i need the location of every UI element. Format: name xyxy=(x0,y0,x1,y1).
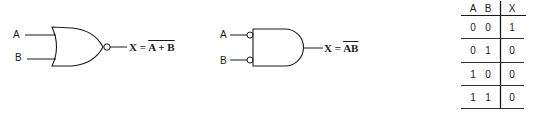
truth-table-grid xyxy=(0,0,539,115)
truth-table-cell: 0 xyxy=(483,23,493,33)
truth-table-cell: 0 xyxy=(507,70,517,80)
logic-diagram-figure: A B X = A + B A B xyxy=(0,0,539,115)
truth-table-cell: 0 xyxy=(507,93,517,103)
truth-table-cell: 1 xyxy=(468,93,478,103)
truth-table-header-x: X xyxy=(507,4,517,14)
truth-table-header-a: A xyxy=(468,4,478,14)
truth-table-cell: 1 xyxy=(483,93,493,103)
truth-table-header-b: B xyxy=(483,4,493,14)
truth-table-cell: 0 xyxy=(468,46,478,56)
truth-table-cell: 0 xyxy=(483,70,493,80)
truth-table-cell: 0 xyxy=(468,23,478,33)
truth-table-cell: 1 xyxy=(468,70,478,80)
truth-table-cell: 1 xyxy=(507,23,517,33)
truth-table-cell: 0 xyxy=(507,46,517,56)
truth-table-cell: 1 xyxy=(483,46,493,56)
